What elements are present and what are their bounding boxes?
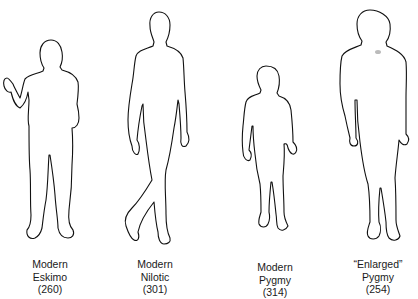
human-silhouettes <box>0 0 418 299</box>
label-line1: “Enlarged” <box>333 258 418 271</box>
label-modern-eskimo: Modern Eskimo (260) <box>5 258 95 296</box>
label-line2: Eskimo <box>5 271 95 284</box>
label-value: (301) <box>110 283 200 296</box>
figure-diagram: Modern Eskimo (260) Modern Nilotic (301)… <box>0 0 418 299</box>
eskimo-silhouette <box>4 40 79 239</box>
label-line1: Modern <box>230 261 320 274</box>
label-value: (260) <box>5 283 95 296</box>
label-value: (314) <box>230 286 320 299</box>
label-line1: Modern <box>110 258 200 271</box>
smudge-mark <box>375 50 381 54</box>
enlarged-pygmy-silhouette <box>340 10 409 240</box>
label-line2: Pygmy <box>230 274 320 287</box>
nilotic-silhouette <box>125 12 189 244</box>
label-value: (254) <box>333 283 418 296</box>
pygmy-silhouette <box>242 66 296 230</box>
label-enlarged-pygmy: “Enlarged” Pygmy (254) <box>333 258 418 296</box>
label-modern-nilotic: Modern Nilotic (301) <box>110 258 200 296</box>
label-line2: Nilotic <box>110 271 200 284</box>
label-line2: Pygmy <box>333 271 418 284</box>
label-line1: Modern <box>5 258 95 271</box>
label-modern-pygmy: Modern Pygmy (314) <box>230 261 320 299</box>
